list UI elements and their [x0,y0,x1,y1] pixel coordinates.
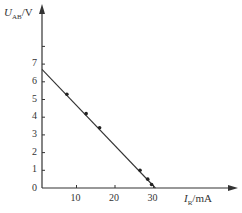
origin-label: 0 [32,182,37,193]
data-point [146,177,150,181]
data-point [150,183,154,187]
data-point [138,169,142,173]
data-point [65,92,69,96]
x-tick-label: 20 [109,192,119,203]
y-tick-label: 5 [32,93,37,104]
x-axis-arrow-icon [228,185,238,191]
y-tick-label: 4 [32,110,37,121]
data-point [98,126,102,130]
y-axis-arrow-icon [39,4,45,14]
x-tick-label: 10 [71,192,81,203]
y-tick-label: 3 [32,128,37,139]
data-point [84,112,88,116]
x-axis-label: IR/mA [184,192,212,207]
axis-ticks [42,46,154,188]
y-tick-label: 1 [32,163,37,174]
y-tick-label: 2 [32,146,37,157]
x-tick-label: 30 [148,192,158,203]
y-tick-label: 6 [32,75,37,86]
y-tick-label: 7 [32,57,37,68]
y-axis-label: UAB/V [4,6,33,21]
